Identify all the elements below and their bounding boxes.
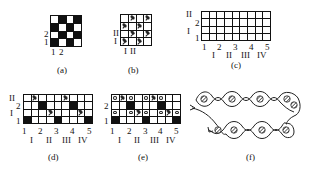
grid-cell [263, 12, 270, 18]
grid-cell [120, 95, 127, 101]
grid-cell [137, 15, 144, 22]
x-label-I: I [124, 47, 127, 56]
x-roman-III: III [150, 136, 159, 145]
grid-cell [55, 117, 62, 123]
grid-cell [158, 117, 165, 123]
x-label-2: 2 [59, 48, 64, 57]
grid-cell [256, 34, 263, 40]
grid-cell [120, 110, 127, 116]
grid-cell [233, 34, 240, 40]
grid-cell [256, 12, 263, 18]
grid-cell [263, 34, 270, 40]
grid-cell [70, 102, 77, 108]
grid-cell [24, 95, 31, 101]
grid-cell [144, 15, 151, 22]
grid-cell [233, 19, 240, 25]
grid-cell [51, 32, 58, 39]
grid-cell [74, 39, 81, 46]
grid-cell [67, 39, 74, 46]
grid-cell [78, 102, 85, 108]
grid-cell [112, 95, 119, 101]
grid-cell [217, 34, 224, 40]
grid-cell [144, 38, 151, 45]
grid-cell [129, 31, 136, 38]
grid-cell [51, 24, 58, 31]
x-roman-I: I [118, 136, 121, 145]
pattern-grid-e [111, 94, 181, 124]
grid-cell [127, 95, 134, 101]
y-label-I: I [187, 27, 190, 36]
y-label-1: 1 [195, 34, 200, 43]
y-label-II: II [9, 94, 15, 103]
grid-cell [127, 102, 134, 108]
grid-cell [217, 12, 224, 18]
grid-cell [240, 34, 247, 40]
x-label-2: 2 [217, 43, 222, 52]
grid-cell [78, 110, 85, 116]
grid-cell [112, 110, 119, 116]
grid-cell [202, 19, 209, 25]
grid-cell [173, 110, 180, 116]
y-label-2: 2 [195, 19, 200, 28]
caption-e: (e) [138, 152, 148, 162]
grid-cell [248, 27, 255, 33]
grid-cell [85, 95, 92, 101]
grid-cell [55, 95, 62, 101]
grid-cell [144, 23, 151, 30]
grid-cell [233, 12, 240, 18]
grid-cell [67, 16, 74, 23]
grid-cell [78, 95, 85, 101]
yarn-path-diagram [190, 88, 312, 148]
grid-cell [59, 24, 66, 31]
grid-cell [225, 12, 232, 18]
empty-grid-c [201, 11, 271, 41]
grid-cell [135, 102, 142, 108]
x-roman-II: II [46, 136, 52, 145]
grid-cell [150, 117, 157, 123]
grid-cell [59, 32, 66, 39]
grid-cell [225, 19, 232, 25]
grid-cell [135, 95, 142, 101]
grid-cell [173, 95, 180, 101]
grid-cell [150, 95, 157, 101]
grid-cell [85, 110, 92, 116]
x-label-3: 3 [233, 43, 238, 52]
grid-cell [74, 32, 81, 39]
x-label-2: 2 [127, 127, 132, 136]
caption-f: (f) [246, 152, 255, 162]
y-label-1: 1 [104, 117, 109, 126]
grid-cell [210, 19, 217, 25]
grid-cell [158, 110, 165, 116]
grid-cell [248, 19, 255, 25]
grid-cell [112, 117, 119, 123]
grid-cell [143, 102, 150, 108]
grid-cell [256, 19, 263, 25]
grid-cell [217, 27, 224, 33]
grid-cell [24, 110, 31, 116]
grid-cell [120, 117, 127, 123]
grid-cell [120, 102, 127, 108]
grid-cell [78, 117, 85, 123]
grid-cell [173, 102, 180, 108]
x-label-3: 3 [54, 127, 59, 136]
x-label-II: II [130, 47, 136, 56]
x-label-1: 1 [110, 127, 115, 136]
grid-cell [55, 110, 62, 116]
grid-cell [202, 27, 209, 33]
grid-cell [47, 95, 54, 101]
grid-cell [62, 117, 69, 123]
y-label-2: 2 [16, 102, 21, 111]
x-roman-III: III [62, 136, 71, 145]
grid-cell [166, 117, 173, 123]
grid-cell [70, 110, 77, 116]
grid-cell [39, 117, 46, 123]
x-roman-IV: IV [257, 51, 267, 60]
grid-cell [62, 110, 69, 116]
y-label-2: 2 [104, 102, 109, 111]
grid-cell [39, 95, 46, 101]
grid-cell [202, 34, 209, 40]
grid-cell [62, 95, 69, 101]
caption-d: (d) [48, 152, 59, 162]
grid-cell [85, 117, 92, 123]
pattern-grid-d [23, 94, 93, 124]
